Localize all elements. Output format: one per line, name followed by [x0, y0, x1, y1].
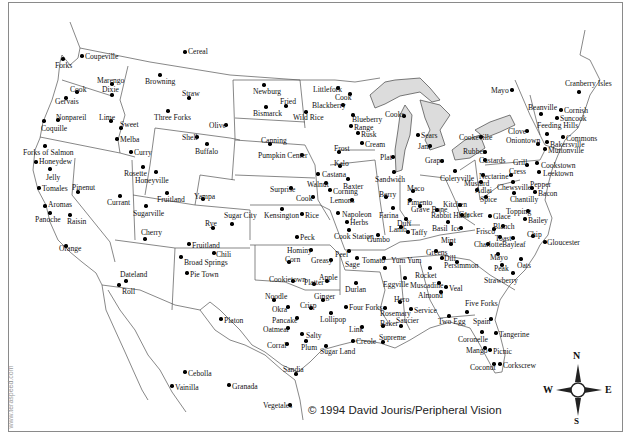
place-marker-icon — [349, 124, 352, 127]
place-marker-icon — [42, 119, 45, 122]
place-label: Melba — [120, 136, 139, 144]
place-label: Panoche — [35, 216, 61, 224]
place-label: Oatmeal — [263, 326, 289, 334]
place-label: Wild Rice — [293, 114, 324, 122]
compass-icon — [548, 354, 608, 424]
place-label: Coconut — [470, 364, 496, 372]
place-label: Gumbo — [367, 236, 390, 244]
place-label: Cooks — [385, 111, 404, 119]
place-label: Cream — [365, 141, 385, 149]
place-marker-icon — [351, 339, 354, 342]
place-label: Pinenut — [72, 184, 95, 192]
place-label: Walnut — [307, 181, 329, 189]
place-label: Persimmon — [444, 262, 479, 270]
place-marker-icon — [295, 235, 298, 238]
place-marker-icon — [336, 211, 339, 214]
place-marker-icon — [494, 331, 497, 334]
place-label: Cherry — [141, 229, 162, 237]
place-marker-icon — [328, 188, 331, 191]
place-label: Blackberry — [312, 102, 346, 110]
place-marker-icon — [511, 271, 514, 274]
place-label: Coquille — [41, 125, 67, 133]
place-marker-icon — [480, 330, 483, 333]
place-label: Nonpareil — [56, 114, 86, 122]
compass-south: S — [574, 416, 579, 426]
place-label: Lemons — [330, 197, 354, 205]
compass-east: E — [605, 384, 612, 395]
place-label: Tomato — [362, 257, 385, 265]
place-label: Pancake — [272, 317, 297, 325]
place-marker-icon — [170, 384, 173, 387]
place-label: Curry — [134, 149, 152, 157]
place-marker-icon — [43, 204, 46, 207]
place-label: Farina — [379, 212, 398, 220]
place-marker-icon — [533, 190, 536, 193]
place-label: Almond — [418, 292, 443, 300]
place-label: Granada — [232, 383, 258, 391]
place-label: Bailey — [528, 217, 548, 225]
place-label: Corkscrew — [503, 362, 536, 370]
place-label: Fried — [280, 98, 296, 106]
place-marker-icon — [409, 307, 412, 310]
place-marker-icon — [545, 132, 548, 135]
place-label: Eggville — [383, 281, 409, 289]
place-label: Beanville — [528, 104, 557, 112]
place-marker-icon — [154, 170, 157, 173]
place-label: Rocket — [415, 272, 437, 280]
place-label: Sears — [421, 132, 437, 140]
place-label: Castana — [322, 171, 346, 179]
place-label: Berry — [379, 191, 396, 199]
place-label: Lamb — [389, 226, 407, 234]
place-label: Topping — [506, 208, 531, 216]
place-marker-icon — [535, 161, 538, 164]
place-marker-icon — [124, 279, 127, 282]
place-marker-icon — [543, 147, 546, 150]
place-marker-icon — [416, 133, 419, 136]
place-label: Ice — [451, 225, 460, 233]
place-label: Coupeville — [85, 53, 118, 61]
place-label: Four Forks — [349, 304, 383, 312]
place-marker-icon — [453, 169, 456, 172]
place-label: Kitchen — [443, 201, 467, 209]
place-label: Adlai — [475, 187, 492, 195]
place-marker-icon — [227, 383, 230, 386]
place-label: Forks — [55, 62, 72, 70]
place-label: Durlan — [345, 286, 366, 294]
place-label: Feeding Hills — [537, 122, 578, 130]
place-label: Canning — [261, 137, 287, 145]
place-marker-icon — [444, 285, 447, 288]
place-label: Marengo — [97, 77, 124, 85]
place-label: Bismarck — [253, 110, 282, 118]
place-label: Cebolla — [188, 370, 212, 378]
place-label: Herbs — [350, 219, 368, 227]
place-marker-icon — [345, 220, 348, 223]
place-label: Sandwich — [375, 176, 405, 184]
place-label: Cook — [70, 86, 86, 94]
place-label: Yum Yum — [391, 257, 421, 265]
place-marker-icon — [498, 362, 501, 365]
compass-north: N — [573, 350, 580, 361]
place-label: Jelly — [46, 174, 60, 182]
place-label: Custards — [479, 157, 506, 165]
place-marker-icon — [115, 137, 118, 140]
place-marker-icon — [179, 255, 182, 258]
place-marker-icon — [230, 222, 233, 225]
place-label: Creole — [356, 338, 376, 346]
place-label: Grape — [425, 157, 444, 165]
place-label: Fruitland — [157, 196, 185, 204]
place-label: Raisin — [67, 218, 86, 226]
place-marker-icon — [391, 206, 394, 209]
place-label: Yampa — [194, 193, 215, 201]
place-marker-icon — [577, 90, 580, 93]
place-label: Muscadine — [410, 282, 443, 290]
place-label: Supreme — [379, 334, 406, 342]
place-label: Corning — [333, 188, 358, 196]
place-label: Charlotte — [474, 241, 502, 249]
place-label: Rice — [305, 212, 319, 220]
place-marker-icon — [510, 88, 513, 91]
place-label: Sugar Land — [320, 348, 355, 356]
place-label: Honeydew — [39, 158, 72, 166]
place-marker-icon — [488, 214, 491, 217]
place-label: Hominy — [287, 247, 312, 255]
place-label: Straw — [182, 90, 200, 98]
